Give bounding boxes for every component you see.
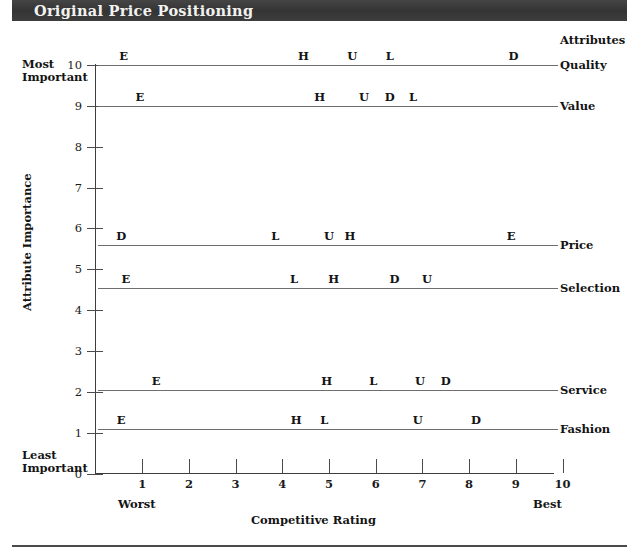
x-tick-label-1: 1: [130, 477, 154, 491]
row-connector-value: [548, 106, 558, 107]
data-point-price-D: D: [111, 229, 131, 243]
data-point-value-E: E: [130, 90, 150, 104]
row-connector-price: [548, 245, 558, 246]
x-tick-5: [329, 459, 330, 473]
row-connector-fashion: [548, 429, 558, 430]
data-point-service-D: D: [436, 374, 456, 388]
most-important-line1: Most: [22, 57, 54, 71]
row-line-fashion: [98, 429, 553, 430]
row-connector-service: [548, 390, 558, 391]
footer-divider: [12, 545, 627, 547]
x-axis-best-caption: Best: [533, 497, 562, 511]
data-point-value-U: U: [354, 90, 374, 104]
data-point-service-U: U: [410, 374, 430, 388]
data-point-price-H: H: [340, 229, 360, 243]
x-tick-label-5: 5: [317, 477, 341, 491]
data-point-service-L: L: [363, 374, 383, 388]
data-point-selection-D: D: [384, 272, 404, 286]
data-point-quality-U: U: [342, 49, 362, 63]
x-tick-label-4: 4: [270, 477, 294, 491]
x-tick-2: [189, 459, 190, 473]
data-point-fashion-H: H: [286, 413, 306, 427]
y-tick-0: [87, 474, 103, 475]
data-point-price-E: E: [501, 229, 521, 243]
data-point-selection-U: U: [417, 272, 437, 286]
y-tick-label-4: 4: [56, 303, 82, 317]
data-point-selection-L: L: [284, 272, 304, 286]
x-tick-label-9: 9: [504, 477, 528, 491]
x-tick-7: [422, 459, 423, 473]
attributes-heading: Attributes: [560, 33, 625, 47]
y-tick-label-6: 6: [56, 221, 82, 235]
y-tick-4: [87, 310, 103, 311]
y-tick-label-8: 8: [56, 140, 82, 154]
x-axis-title: Competitive Rating: [0, 513, 627, 527]
attribute-label-price: Price: [560, 238, 593, 252]
row-line-quality: [98, 65, 553, 66]
data-point-quality-H: H: [293, 49, 313, 63]
x-tick-label-6: 6: [364, 477, 388, 491]
x-tick-9: [516, 459, 517, 473]
y-tick-label-9: 9: [56, 99, 82, 113]
row-line-selection: [98, 288, 553, 289]
attribute-label-service: Service: [560, 383, 607, 397]
x-tick-8: [469, 459, 470, 473]
least-important-line1: Least: [22, 448, 57, 462]
x-tick-3: [236, 459, 237, 473]
attribute-label-quality: Quality: [560, 58, 607, 72]
data-point-value-L: L: [403, 90, 423, 104]
most-important-line2: Important: [22, 70, 88, 84]
row-line-price: [98, 245, 553, 246]
y-tick-5: [87, 269, 103, 270]
x-tick-6: [376, 459, 377, 473]
x-tick-label-8: 8: [457, 477, 481, 491]
y-tick-label-1: 1: [56, 426, 82, 440]
data-point-quality-D: D: [503, 49, 523, 63]
row-connector-selection: [548, 288, 558, 289]
x-tick-label-3: 3: [224, 477, 248, 491]
attribute-label-value: Value: [560, 99, 595, 113]
data-point-price-U: U: [319, 229, 339, 243]
data-point-service-E: E: [146, 374, 166, 388]
x-axis-worst-caption: Worst: [118, 497, 156, 511]
row-line-service: [98, 390, 553, 391]
y-tick-8: [87, 147, 103, 148]
data-point-fashion-U: U: [408, 413, 428, 427]
y-tick-label-2: 2: [56, 385, 82, 399]
attribute-label-selection: Selection: [560, 281, 620, 295]
x-tick-10: [563, 459, 564, 473]
data-point-service-H: H: [317, 374, 337, 388]
y-axis-title: Attribute Importance: [20, 191, 34, 311]
least-important-caption: Least Important: [22, 449, 88, 475]
x-tick-label-2: 2: [177, 477, 201, 491]
x-tick-label-10: 10: [551, 477, 575, 491]
row-line-value: [98, 106, 553, 107]
x-tick-4: [282, 459, 283, 473]
data-point-selection-E: E: [116, 272, 136, 286]
most-important-caption: Most Important: [22, 58, 88, 84]
y-tick-label-7: 7: [56, 181, 82, 195]
y-tick-label-5: 5: [56, 262, 82, 276]
x-axis-line: [95, 473, 554, 474]
attribute-label-fashion: Fashion: [560, 422, 610, 436]
y-tick-7: [87, 188, 103, 189]
data-point-value-H: H: [310, 90, 330, 104]
data-point-fashion-D: D: [466, 413, 486, 427]
y-tick-3: [87, 351, 103, 352]
data-point-fashion-L: L: [314, 413, 334, 427]
data-point-quality-E: E: [114, 49, 134, 63]
y-tick-1: [87, 433, 103, 434]
x-tick-1: [142, 459, 143, 473]
y-tick-2: [87, 392, 103, 393]
y-tick-6: [87, 228, 103, 229]
least-important-line2: Important: [22, 461, 88, 475]
data-point-selection-H: H: [324, 272, 344, 286]
data-point-value-D: D: [380, 90, 400, 104]
row-connector-quality: [548, 65, 558, 66]
data-point-price-L: L: [265, 229, 285, 243]
data-point-quality-L: L: [380, 49, 400, 63]
chart-canvas: 012345678910 12345678910 QualityEHULDVal…: [0, 0, 627, 560]
y-tick-label-3: 3: [56, 344, 82, 358]
x-tick-label-7: 7: [410, 477, 434, 491]
data-point-fashion-E: E: [111, 413, 131, 427]
